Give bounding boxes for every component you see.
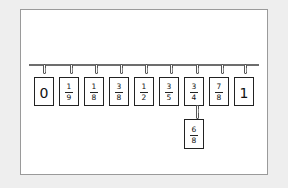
card-six-eighths: 6 8 xyxy=(184,119,204,149)
peg-icon xyxy=(196,105,199,119)
card-three-quarters: 3 4 xyxy=(184,77,204,106)
fraction: 3 4 xyxy=(190,83,198,102)
peg-icon xyxy=(120,64,123,74)
peg-icon xyxy=(145,64,148,74)
card-one-eighth: 1 8 xyxy=(84,77,104,106)
fraction: 1 2 xyxy=(140,83,148,102)
fraction: 6 8 xyxy=(190,126,198,145)
numerator: 3 xyxy=(117,83,122,91)
denominator: 8 xyxy=(217,94,222,102)
denominator: 4 xyxy=(192,94,197,102)
peg-icon xyxy=(221,64,224,74)
fraction: 1 8 xyxy=(90,83,98,102)
card-one-ninth: 1 9 xyxy=(59,77,79,106)
peg-icon xyxy=(70,64,73,74)
card-one: 1 xyxy=(234,77,254,106)
numerator: 7 xyxy=(217,83,222,91)
numerator: 3 xyxy=(192,83,197,91)
denominator: 8 xyxy=(192,137,197,145)
clothesline-rope xyxy=(29,64,259,66)
card-seven-eighths: 7 8 xyxy=(209,77,229,106)
peg-icon xyxy=(170,64,173,74)
card-one-half: 1 2 xyxy=(134,77,154,106)
numerator: 1 xyxy=(92,83,97,91)
card-three-eighths: 3 8 xyxy=(109,77,129,106)
denominator: 8 xyxy=(92,94,97,102)
numerator: 6 xyxy=(192,126,197,134)
card-zero: 0 xyxy=(34,77,54,106)
fraction: 3 5 xyxy=(165,83,173,102)
fraction: 3 8 xyxy=(115,83,123,102)
denominator: 9 xyxy=(67,94,72,102)
denominator: 2 xyxy=(142,94,147,102)
peg-icon xyxy=(196,64,199,74)
peg-icon xyxy=(43,64,46,74)
numerator: 1 xyxy=(67,83,72,91)
fraction: 7 8 xyxy=(215,83,223,102)
denominator: 8 xyxy=(117,94,122,102)
denominator: 5 xyxy=(167,94,172,102)
numerator: 1 xyxy=(142,83,147,91)
peg-icon xyxy=(244,64,247,74)
fraction: 1 9 xyxy=(65,83,73,102)
peg-icon xyxy=(95,64,98,74)
card-value: 0 xyxy=(40,86,49,100)
card-three-fifths: 3 5 xyxy=(159,77,179,106)
card-value: 1 xyxy=(240,86,249,100)
numerator: 3 xyxy=(167,83,172,91)
